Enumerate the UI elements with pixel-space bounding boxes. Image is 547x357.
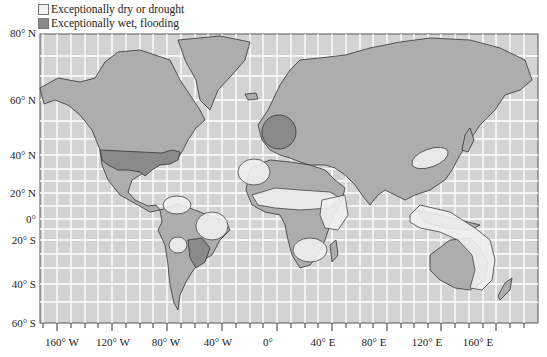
lon-label-40e: 40° E	[311, 336, 336, 348]
bottom-ticks	[0, 0, 547, 357]
lon-label-0: 0°	[263, 336, 273, 348]
lon-label-160e: 160° E	[463, 336, 493, 348]
lon-label-80e: 80° E	[362, 336, 387, 348]
lon-label-120e: 120° E	[412, 336, 442, 348]
lon-label-120w: 120° W	[96, 336, 130, 348]
lon-label-40w: 40° W	[204, 336, 232, 348]
lon-label-80w: 80° W	[152, 336, 180, 348]
lon-label-160w: 160° W	[45, 336, 79, 348]
